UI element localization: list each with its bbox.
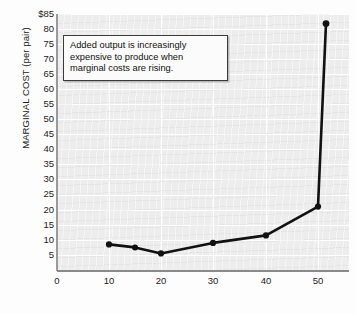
y-tick-40: 40 [18, 144, 54, 154]
y-tick-45: 45 [18, 129, 54, 139]
data-point-50 [315, 204, 321, 210]
data-point-peak [323, 20, 330, 27]
x-tick-20: 20 [146, 275, 176, 286]
data-point-15 [132, 244, 138, 250]
x-tick-10: 10 [94, 275, 124, 286]
x-tick-50: 50 [303, 275, 333, 286]
y-tick-85: $85 [18, 9, 54, 19]
data-point-30 [210, 240, 216, 246]
x-axis-line [57, 270, 349, 272]
y-tick-5: 5 [18, 250, 54, 260]
data-point-10 [106, 241, 112, 247]
x-axis-tick-labels: 0 10 20 30 40 50 [0, 275, 356, 291]
annotation-line-1: Added output is increasingly [70, 40, 222, 52]
x-tick-40: 40 [251, 275, 281, 286]
y-tick-55: 55 [18, 99, 54, 109]
y-tick-10: 10 [18, 235, 54, 245]
y-axis-tick-labels: $85 80 75 70 65 60 55 50 45 40 35 30 25 … [18, 14, 54, 270]
data-point-40 [263, 232, 269, 238]
y-tick-60: 60 [18, 84, 54, 94]
y-tick-50: 50 [18, 114, 54, 124]
y-tick-80: 80 [18, 24, 54, 34]
marginal-cost-chart: MARGINAL COST (per pair) $85 80 75 70 65… [0, 0, 356, 314]
annotation-callout: Added output is increasingly expensive t… [63, 35, 228, 81]
y-tick-20: 20 [18, 205, 54, 215]
y-tick-25: 25 [18, 189, 54, 199]
y-tick-15: 15 [18, 220, 54, 230]
y-tick-70: 70 [18, 54, 54, 64]
y-tick-75: 75 [18, 39, 54, 49]
y-axis-line [56, 14, 58, 271]
y-tick-65: 65 [18, 69, 54, 79]
x-tick-30: 30 [198, 275, 228, 286]
y-tick-35: 35 [18, 159, 54, 169]
data-point-20 [158, 250, 164, 256]
x-tick-0: 0 [42, 275, 72, 286]
annotation-line-2: expensive to produce when [70, 52, 222, 64]
y-tick-30: 30 [18, 174, 54, 184]
annotation-line-3: marginal costs are rising. [70, 63, 222, 75]
